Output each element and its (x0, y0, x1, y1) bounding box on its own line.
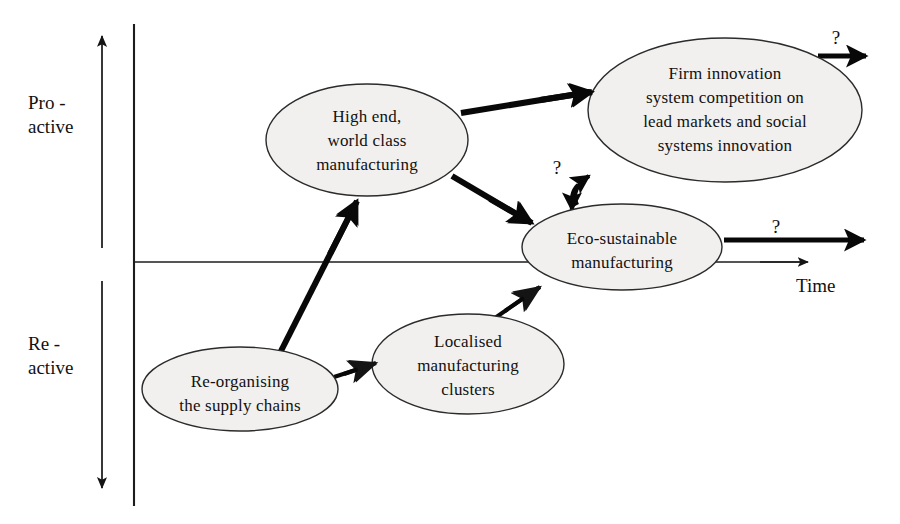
node-localised-clusters[interactable]: Localised manufacturing clusters (372, 314, 564, 414)
node-localised-clusters-line-3: clusters (441, 380, 495, 399)
time-axis-label: Time (796, 275, 835, 296)
node-firm-innovation[interactable]: Firm innovation system competition on le… (588, 38, 862, 182)
node-re-organising-line-1: Re-organising (191, 372, 290, 391)
node-re-organising-supply-chains[interactable]: Re-organising the supply chains (142, 347, 338, 431)
arrow-high-end-to-firm-innovation-head (540, 92, 592, 100)
node-eco-sustainable-line-1: Eco-sustainable (567, 229, 678, 248)
node-high-end-manufacturing[interactable]: High end, world class manufacturing (266, 84, 468, 196)
node-re-organising-line-2: the supply chains (179, 396, 300, 415)
node-firm-innovation-line-4: systems innovation (658, 136, 793, 155)
arrow-reorganising-to-clusters-head (344, 363, 376, 374)
node-firm-innovation-line-2: system competition on (646, 88, 804, 107)
node-high-end-line-1: High end, (333, 107, 402, 126)
arrow-reorganising-to-high-end-head (330, 201, 357, 254)
question-mark-eco-future: ? (772, 216, 780, 237)
question-mark-firm-future: ? (832, 27, 840, 48)
proactive-label-line-2: active (28, 116, 73, 137)
question-mark-eco-firm: ? (553, 157, 561, 178)
node-eco-sustainable-line-2: manufacturing (571, 253, 673, 272)
node-eco-sustainable[interactable]: Eco-sustainable manufacturing (522, 204, 722, 290)
arrow-clusters-to-eco-sustainable-head (505, 287, 540, 311)
arrow-high-end-to-eco-sustainable-head (490, 199, 532, 223)
reactive-label-line-2: active (28, 357, 73, 378)
node-localised-clusters-line-1: Localised (434, 332, 502, 351)
node-firm-innovation-line-1: Firm innovation (668, 64, 781, 83)
node-high-end-line-2: world class (327, 131, 406, 150)
node-firm-innovation-ellipse[interactable] (588, 38, 862, 182)
reactive-label-line-1: Re - (28, 333, 60, 354)
node-firm-innovation-line-3: lead markets and social (643, 112, 807, 131)
arrow-eco-firm-bidirectional-up (575, 176, 589, 205)
proactive-label-line-1: Pro - (28, 92, 65, 113)
node-high-end-line-3: manufacturing (316, 155, 418, 174)
node-localised-clusters-line-2: manufacturing (417, 356, 519, 375)
diagram-canvas: High end, world class manufacturing Firm… (0, 0, 900, 524)
